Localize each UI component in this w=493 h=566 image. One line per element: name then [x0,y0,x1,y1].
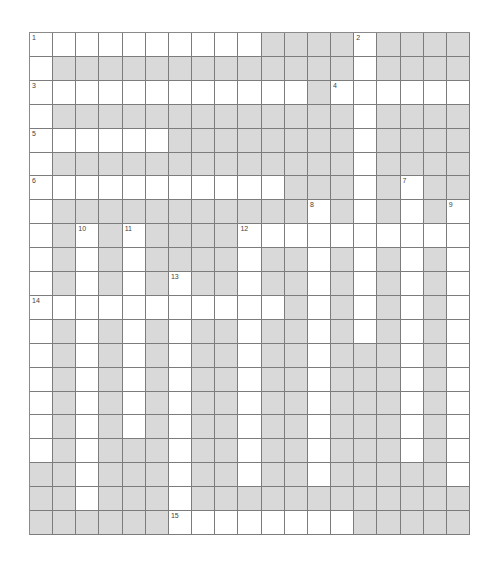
crossword-cell[interactable] [401,81,424,105]
crossword-cell[interactable] [146,129,169,153]
crossword-cell[interactable] [401,320,424,344]
crossword-cell[interactable] [447,296,470,320]
crossword-cell[interactable] [401,344,424,368]
crossword-cell[interactable] [123,368,146,392]
crossword-cell[interactable] [238,320,261,344]
crossword-cell[interactable] [30,57,53,81]
crossword-cell[interactable] [447,224,470,248]
crossword-cell[interactable] [215,176,238,200]
crossword-cell[interactable]: 13 [169,272,192,296]
crossword-cell[interactable]: 15 [169,511,192,535]
crossword-cell[interactable] [169,344,192,368]
crossword-cell[interactable] [169,176,192,200]
crossword-cell[interactable] [123,176,146,200]
crossword-cell[interactable] [215,296,238,320]
crossword-cell[interactable] [123,272,146,296]
crossword-cell[interactable] [169,463,192,487]
crossword-cell[interactable]: 2 [354,33,377,57]
crossword-cell[interactable] [99,176,122,200]
crossword-cell[interactable] [401,248,424,272]
crossword-cell[interactable] [146,176,169,200]
crossword-cell[interactable] [238,81,261,105]
crossword-cell[interactable] [53,129,76,153]
crossword-cell[interactable] [447,439,470,463]
crossword-cell[interactable]: 14 [30,296,53,320]
crossword-cell[interactable]: 6 [30,176,53,200]
crossword-cell[interactable] [123,296,146,320]
crossword-cell[interactable] [123,81,146,105]
crossword-cell[interactable] [76,248,99,272]
crossword-cell[interactable] [354,129,377,153]
crossword-cell[interactable] [30,320,53,344]
crossword-cell[interactable]: 3 [30,81,53,105]
crossword-cell[interactable] [192,176,215,200]
crossword-cell[interactable] [169,296,192,320]
crossword-cell[interactable] [215,33,238,57]
crossword-cell[interactable] [401,392,424,416]
crossword-cell[interactable] [308,320,331,344]
crossword-cell[interactable] [447,81,470,105]
crossword-cell[interactable] [76,296,99,320]
crossword-cell[interactable] [285,511,308,535]
crossword-cell[interactable] [354,81,377,105]
crossword-cell[interactable] [53,296,76,320]
crossword-cell[interactable] [262,296,285,320]
crossword-cell[interactable] [308,439,331,463]
crossword-cell[interactable] [76,415,99,439]
crossword-cell[interactable] [76,368,99,392]
crossword-cell[interactable] [401,415,424,439]
crossword-cell[interactable] [169,368,192,392]
crossword-cell[interactable] [354,320,377,344]
crossword-cell[interactable]: 7 [401,176,424,200]
crossword-cell[interactable] [354,57,377,81]
crossword-cell[interactable] [76,392,99,416]
crossword-cell[interactable]: 1 [30,33,53,57]
crossword-cell[interactable] [30,153,53,177]
crossword-cell[interactable] [308,344,331,368]
crossword-cell[interactable] [76,320,99,344]
crossword-cell[interactable] [308,368,331,392]
crossword-cell[interactable]: 5 [30,129,53,153]
crossword-cell[interactable] [76,176,99,200]
crossword-cell[interactable] [215,511,238,535]
crossword-cell[interactable] [76,272,99,296]
crossword-cell[interactable] [401,224,424,248]
crossword-cell[interactable] [123,248,146,272]
crossword-cell[interactable] [447,272,470,296]
crossword-cell[interactable]: 8 [308,200,331,224]
crossword-cell[interactable] [76,344,99,368]
crossword-cell[interactable] [285,81,308,105]
crossword-cell[interactable] [354,200,377,224]
crossword-cell[interactable] [401,272,424,296]
crossword-cell[interactable] [169,439,192,463]
crossword-cell[interactable] [30,105,53,129]
crossword-cell[interactable] [238,368,261,392]
crossword-cell[interactable] [238,344,261,368]
crossword-cell[interactable] [308,415,331,439]
crossword-cell[interactable] [146,296,169,320]
crossword-cell[interactable] [424,224,447,248]
crossword-cell[interactable] [169,392,192,416]
crossword-cell[interactable] [262,81,285,105]
crossword-cell[interactable] [30,344,53,368]
crossword-cell[interactable] [238,439,261,463]
crossword-cell[interactable] [123,33,146,57]
crossword-cell[interactable]: 10 [76,224,99,248]
crossword-cell[interactable] [99,296,122,320]
crossword-cell[interactable]: 4 [331,81,354,105]
crossword-cell[interactable] [447,415,470,439]
crossword-cell[interactable] [123,415,146,439]
crossword-cell[interactable] [192,33,215,57]
crossword-cell[interactable] [262,511,285,535]
crossword-cell[interactable] [238,415,261,439]
crossword-cell[interactable] [76,439,99,463]
crossword-cell[interactable] [354,272,377,296]
crossword-cell[interactable] [308,224,331,248]
crossword-cell[interactable]: 11 [123,224,146,248]
crossword-cell[interactable] [76,81,99,105]
crossword-cell[interactable] [123,129,146,153]
crossword-cell[interactable] [238,463,261,487]
crossword-cell[interactable] [238,272,261,296]
crossword-cell[interactable] [30,439,53,463]
crossword-cell[interactable] [169,415,192,439]
